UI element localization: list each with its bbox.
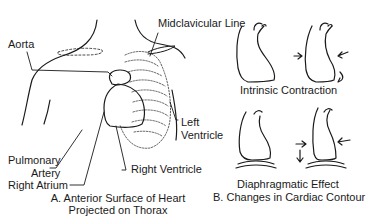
label-aorta: Aorta: [8, 38, 34, 50]
arrow-down-icon: [297, 150, 303, 162]
arrow-in-right-icon: [338, 52, 348, 58]
label-intrinsic-contraction: Intrinsic Contraction: [240, 84, 337, 96]
caption-b: B. Changes in Cardiac Contour: [213, 191, 365, 203]
label-right-atrium: Right Atrium: [8, 179, 68, 191]
clavicle-left: [58, 48, 102, 55]
heart-contour-diaphragm-after: [296, 108, 350, 168]
heart-contour-intrinsic-before: [237, 23, 275, 82]
caption-a-line2: Projected on Thorax: [48, 204, 188, 217]
arrow-in-right-icon: [338, 138, 350, 145]
arrow-in-left-icon: [294, 53, 302, 59]
rib-cage-stipple: [120, 51, 171, 148]
label-midclavicular-line: Midclavicular Line: [158, 17, 245, 29]
arrow-in-left-icon: [296, 141, 306, 147]
label-pulmonary-artery-2: Artery: [31, 167, 60, 179]
heart-contour-diaphragm-before: [236, 111, 276, 168]
heart-outline: [104, 70, 144, 127]
label-diaphragmatic-effect: Diaphragmatic Effect: [237, 178, 339, 190]
label-right-ventricle: Right Ventricle: [131, 163, 202, 175]
label-pulmonary-artery-1: Pulmonary: [8, 154, 61, 166]
heart-contour-intrinsic-after: [294, 23, 348, 82]
label-left-ventricle-2: Ventricle: [181, 129, 223, 141]
thorax-outline: [22, 20, 185, 140]
label-left-ventricle-1: Left: [181, 116, 199, 128]
rotation-arrow-icon: [338, 72, 343, 82]
